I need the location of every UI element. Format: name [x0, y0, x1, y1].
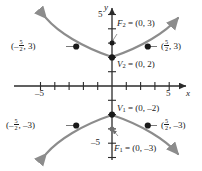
hyperbola-figure: y x 5 –5 –5 5 F2 = (0, 3) V2 = (0, 2) V1…: [0, 0, 202, 171]
pul-rest: , 3): [24, 41, 36, 51]
point-lower-left-label: (–52, –3): [6, 118, 35, 132]
y-tick-label-neg5: –5: [91, 137, 100, 147]
vertex-lower-eq: = (0, –2): [126, 103, 160, 113]
focus-upper-dot: [110, 41, 115, 46]
point-upper-right-label: (52, 3): [161, 39, 181, 53]
vertex-upper-label: V2 = (0, 2): [117, 59, 155, 69]
vertex-upper-eq: = (0, 2): [126, 59, 155, 69]
y-tick-label-5: 5: [98, 9, 103, 19]
pll-rest: , –3): [19, 120, 36, 130]
pll-open: (–: [6, 120, 14, 130]
x-tick-label-5: 5: [166, 88, 171, 98]
y-axis: [108, 8, 116, 160]
vertex-lower-dot: [109, 112, 115, 118]
focus-upper-eq: = (0, 3): [126, 18, 155, 28]
plr-rest: , –3): [169, 120, 186, 130]
point-lower-right-label: (52, –3): [161, 118, 186, 132]
pur-rest: , 3): [169, 41, 181, 51]
pul-open: (–: [11, 41, 19, 51]
point-upper-right-dot: [145, 43, 151, 49]
point-upper-left-dot: [73, 43, 79, 49]
point-lower-left-dot: [73, 122, 79, 128]
point-lower-right-dot: [145, 122, 151, 128]
vertex-lower-label: V1 = (0, –2): [117, 103, 159, 113]
focus-lower-eq: = (0, –3): [123, 143, 157, 153]
x-axis-label: x: [186, 88, 190, 98]
point-upper-left-label: (–52, 3): [11, 39, 36, 53]
graph-canvas: [0, 0, 202, 171]
y-axis-label: y: [104, 2, 108, 12]
x-tick-label-neg5: –5: [35, 88, 44, 98]
focus-lower-dot: [110, 126, 115, 131]
focus-lower-label: F1 = (0, –3): [114, 143, 156, 153]
vertex-upper-dot: [109, 54, 115, 60]
focus-upper-label: F2 = (0, 3): [117, 18, 155, 28]
